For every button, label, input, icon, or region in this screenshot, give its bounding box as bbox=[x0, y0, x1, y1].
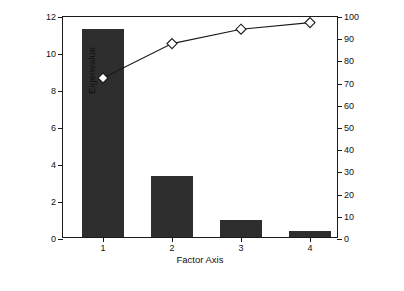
cumulative-line-series bbox=[63, 17, 339, 239]
y2-ticklabel-10: 10 bbox=[344, 212, 354, 222]
y2-tick-100 bbox=[337, 17, 342, 18]
cumulative-markers bbox=[98, 18, 315, 83]
y-ticklabel-4: 4 bbox=[51, 160, 56, 170]
y-ticklabel-8: 8 bbox=[51, 86, 56, 96]
marker-factor-2 bbox=[167, 39, 177, 49]
y-axis-title: Eigenvalue bbox=[86, 0, 97, 151]
y-tick-8 bbox=[58, 91, 63, 92]
y2-tick-20 bbox=[337, 195, 342, 196]
y-ticklabel-12: 12 bbox=[46, 12, 56, 22]
x-ticklabel-4: 4 bbox=[307, 243, 312, 253]
x-tick-3 bbox=[241, 237, 242, 242]
y-ticklabel-0: 0 bbox=[51, 234, 56, 244]
y2-tick-90 bbox=[337, 39, 342, 40]
x-tick-1 bbox=[103, 237, 104, 242]
x-tick-2 bbox=[172, 237, 173, 242]
x-ticklabel-1: 1 bbox=[100, 243, 105, 253]
y2-ticklabel-0: 0 bbox=[344, 234, 349, 244]
y-ticklabel-6: 6 bbox=[51, 123, 56, 133]
y-tick-0 bbox=[58, 239, 63, 240]
y2-ticklabel-90: 90 bbox=[344, 34, 354, 44]
x-tick-4 bbox=[310, 237, 311, 242]
y-ticklabel-10: 10 bbox=[46, 49, 56, 59]
cumulative-line bbox=[103, 23, 310, 78]
y2-ticklabel-30: 30 bbox=[344, 167, 354, 177]
y2-tick-0 bbox=[337, 239, 342, 240]
marker-factor-1 bbox=[98, 73, 108, 83]
y-tick-6 bbox=[58, 128, 63, 129]
y-tick-4 bbox=[58, 165, 63, 166]
marker-factor-4 bbox=[305, 18, 315, 28]
y-tick-10 bbox=[58, 54, 63, 55]
y2-tick-70 bbox=[337, 84, 342, 85]
y2-tick-10 bbox=[337, 217, 342, 218]
y-tick-2 bbox=[58, 202, 63, 203]
plot-area: 0 2 4 6 8 10 12 0 10 20 30 40 50 60 70 8… bbox=[62, 16, 338, 238]
y2-ticklabel-60: 60 bbox=[344, 101, 354, 111]
x-axis-title: Factor Axis bbox=[62, 254, 338, 265]
scree-plot: 0 2 4 6 8 10 12 0 10 20 30 40 50 60 70 8… bbox=[0, 0, 404, 291]
x-ticklabel-3: 3 bbox=[238, 243, 243, 253]
marker-factor-3 bbox=[236, 24, 246, 34]
y-tick-12 bbox=[58, 17, 63, 18]
y2-tick-50 bbox=[337, 128, 342, 129]
y2-tick-30 bbox=[337, 172, 342, 173]
y2-ticklabel-50: 50 bbox=[344, 123, 354, 133]
y2-ticklabel-70: 70 bbox=[344, 79, 354, 89]
x-ticklabel-2: 2 bbox=[169, 243, 174, 253]
y-ticklabel-2: 2 bbox=[51, 197, 56, 207]
y2-ticklabel-20: 20 bbox=[344, 190, 354, 200]
y2-tick-60 bbox=[337, 106, 342, 107]
y2-ticklabel-40: 40 bbox=[344, 145, 354, 155]
y2-tick-80 bbox=[337, 61, 342, 62]
y2-ticklabel-80: 80 bbox=[344, 56, 354, 66]
y2-tick-40 bbox=[337, 150, 342, 151]
y2-ticklabel-100: 100 bbox=[344, 12, 359, 22]
